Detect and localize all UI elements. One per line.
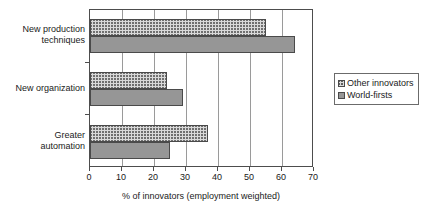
x-tick bbox=[153, 167, 154, 171]
bar-chart: 010203040506070 New productiontechniques… bbox=[0, 0, 426, 215]
legend-swatch-solid bbox=[338, 92, 345, 99]
x-tick bbox=[89, 167, 90, 171]
x-tick-label: 0 bbox=[74, 172, 104, 183]
legend-label: Other innovators bbox=[347, 77, 414, 89]
category-label-line: Greater bbox=[0, 130, 85, 141]
y-tick bbox=[85, 62, 89, 63]
x-tick-label: 70 bbox=[298, 172, 328, 183]
x-tick bbox=[313, 167, 314, 171]
chart-legend: Other innovatorsWorld-firsts bbox=[334, 73, 419, 105]
x-tick bbox=[185, 167, 186, 171]
legend-swatch-hatched bbox=[338, 80, 345, 87]
gridline bbox=[282, 10, 283, 166]
x-tick bbox=[217, 167, 218, 171]
bar-world-firsts bbox=[90, 142, 170, 159]
category-label: New productiontechniques bbox=[0, 24, 85, 46]
category-label-line: techniques bbox=[0, 35, 85, 46]
y-tick bbox=[85, 114, 89, 115]
legend-item[interactable]: World-firsts bbox=[338, 89, 414, 101]
x-tick-label: 50 bbox=[234, 172, 264, 183]
x-tick-label: 30 bbox=[170, 172, 200, 183]
legend-label: World-firsts bbox=[347, 89, 392, 101]
x-tick-label: 60 bbox=[266, 172, 296, 183]
category-label-line: New production bbox=[0, 24, 85, 35]
x-tick-label: 10 bbox=[106, 172, 136, 183]
category-label-line: automation bbox=[0, 141, 85, 152]
x-axis-title: % of innovators (employment weighted) bbox=[89, 191, 313, 202]
x-tick-label: 40 bbox=[202, 172, 232, 183]
category-label-line: New organization bbox=[0, 83, 85, 94]
bar-other-innovators bbox=[90, 72, 167, 89]
bar-world-firsts bbox=[90, 89, 183, 106]
category-label: New organization bbox=[0, 83, 85, 94]
x-tick bbox=[281, 167, 282, 171]
legend-item[interactable]: Other innovators bbox=[338, 77, 414, 89]
x-tick-label: 20 bbox=[138, 172, 168, 183]
bar-world-firsts bbox=[90, 36, 295, 53]
x-tick bbox=[121, 167, 122, 171]
plot-area bbox=[89, 9, 313, 167]
bar-other-innovators bbox=[90, 19, 266, 36]
category-label: Greaterautomation bbox=[0, 130, 85, 152]
x-tick bbox=[249, 167, 250, 171]
bar-other-innovators bbox=[90, 125, 208, 142]
